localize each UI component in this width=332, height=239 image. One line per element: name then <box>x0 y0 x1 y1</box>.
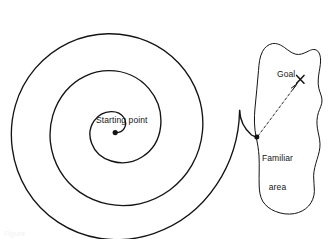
goal-label: Goal <box>277 70 295 80</box>
spiral-to-blob-connector <box>240 110 256 137</box>
goal-cross-marker <box>297 75 304 83</box>
spiral-outer-arm <box>100 110 239 239</box>
caption-fragment: Figure <box>4 229 25 238</box>
goal-direction-dashed-arrow <box>258 85 297 137</box>
arrowhead-icon <box>291 84 297 90</box>
familiar-area-label: Familiar area <box>262 135 293 212</box>
search-spiral-path <box>11 34 202 239</box>
familiar-area-label-line2: area <box>262 183 293 193</box>
familiar-area-label-line1: Familiar <box>262 154 293 164</box>
figure-canvas: Starting point Goal Familiar area Figure <box>0 0 332 239</box>
start-point-dot <box>113 130 118 135</box>
familiar-area-entry-dot <box>254 135 259 140</box>
starting-point-label: Starting point <box>96 116 148 126</box>
